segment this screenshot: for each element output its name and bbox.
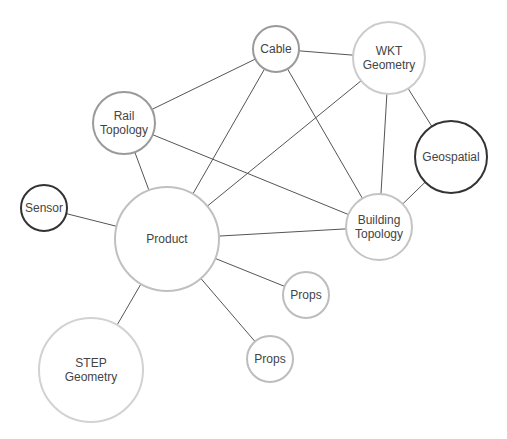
node-label: Cable: [260, 42, 292, 56]
node-geospatial[interactable]: Geospatial: [415, 121, 487, 193]
node-label: Topology: [355, 227, 403, 241]
node-label: Building: [358, 213, 401, 227]
node-rail-topology[interactable]: RailTopology: [93, 92, 155, 154]
node-label: Sensor: [25, 201, 63, 215]
node-building-topology[interactable]: BuildingTopology: [346, 194, 412, 260]
node-label: Rail: [114, 109, 135, 123]
node-label: Geometry: [363, 58, 416, 72]
node-label: Geospatial: [422, 150, 479, 164]
nodes-layer: RailTopologyCableWKTGeometryGeospatialBu…: [21, 22, 487, 422]
network-graph: RailTopologyCableWKTGeometryGeospatialBu…: [0, 0, 507, 439]
node-step-geometry[interactable]: STEPGeometry: [39, 318, 143, 422]
node-sensor[interactable]: Sensor: [21, 185, 67, 231]
node-label: WKT: [376, 44, 403, 58]
node-label: Product: [146, 232, 188, 246]
node-cable[interactable]: Cable: [253, 26, 299, 72]
node-product[interactable]: Product: [115, 187, 219, 291]
node-props-2[interactable]: Props: [247, 336, 293, 382]
node-wkt-geometry[interactable]: WKTGeometry: [353, 22, 425, 94]
node-label: Topology: [100, 123, 148, 137]
node-label: Props: [254, 352, 285, 366]
node-label: Props: [290, 288, 321, 302]
node-label: Geometry: [65, 370, 118, 384]
node-props-1[interactable]: Props: [283, 272, 329, 318]
node-label: STEP: [75, 356, 106, 370]
